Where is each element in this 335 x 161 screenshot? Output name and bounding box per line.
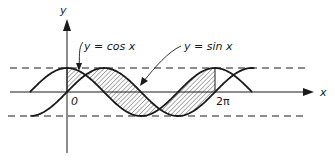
y-axis-arrow-icon xyxy=(63,19,71,31)
sin-curve-label: y = sin x xyxy=(183,40,233,53)
sin-leader-arrow-icon xyxy=(140,77,148,86)
cos-curve-label: y = cos x xyxy=(83,40,136,53)
sin-label-leader xyxy=(143,46,181,82)
x-axis-arrow-icon xyxy=(303,88,314,96)
origin-label: 0 xyxy=(71,95,78,108)
two-pi-tick-label: 2π xyxy=(216,95,230,108)
y-axis-label: y xyxy=(59,4,67,17)
x-axis-label: x xyxy=(319,86,327,99)
sine-cosine-graph: x y 0 2π y = cos x y = sin x xyxy=(0,0,335,161)
